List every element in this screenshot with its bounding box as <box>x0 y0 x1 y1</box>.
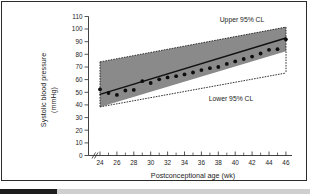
y-ticklabel: 80 <box>75 51 83 58</box>
confidence-band <box>100 27 286 107</box>
data-point <box>208 66 212 70</box>
data-point <box>115 93 119 97</box>
x-ticklabel: 36 <box>198 159 206 166</box>
bottom-bar-light-segment <box>57 189 310 194</box>
data-point <box>250 55 254 59</box>
data-point <box>242 57 246 61</box>
x-ticklabel: 38 <box>215 159 223 166</box>
bottom-bar-dark-segment <box>0 189 57 194</box>
x-ticklabel: 28 <box>130 159 138 166</box>
x-axis-ticks <box>100 152 286 156</box>
y-axis-ticklabels: 0 10 20 30 40 50 60 70 80 90 100 110 <box>72 13 83 159</box>
upper-cl-label: Upper 95% CL <box>220 16 265 24</box>
data-point <box>191 71 195 75</box>
y-ticklabel: 100 <box>72 25 83 32</box>
x-axis-ticklabels: 24 26 28 30 32 34 36 38 40 42 44 46 <box>96 159 289 166</box>
y-axis-title-line2: (mmHg) <box>49 87 58 113</box>
x-ticklabel: 24 <box>96 159 104 166</box>
y-ticklabel: 10 <box>75 139 83 146</box>
y-ticklabel: 90 <box>75 38 83 45</box>
data-point <box>166 76 170 80</box>
scatter-chart: 0 10 20 30 40 50 60 70 80 90 100 110 <box>0 0 310 194</box>
data-point <box>225 62 229 66</box>
data-point <box>233 60 237 64</box>
x-axis-title: Postconceptional age (wk) <box>151 171 235 180</box>
data-point <box>149 81 153 85</box>
y-ticklabel: 0 <box>79 152 83 159</box>
data-point <box>216 65 220 69</box>
y-axis-ticks <box>85 17 89 156</box>
data-point <box>132 88 136 92</box>
y-ticklabel: 30 <box>75 114 83 121</box>
y-ticklabel: 110 <box>72 13 83 20</box>
x-ticklabel: 30 <box>147 159 155 166</box>
data-point <box>276 47 280 51</box>
data-point <box>124 89 128 93</box>
lower-cl-label: Lower 95% CL <box>209 95 254 102</box>
x-ticklabel: 26 <box>113 159 121 166</box>
y-ticklabel: 60 <box>75 76 83 83</box>
page-bottom-bar <box>0 186 310 194</box>
figure-panel: 0 10 20 30 40 50 60 70 80 90 100 110 <box>0 0 310 194</box>
y-ticklabel: 20 <box>75 127 83 134</box>
x-ticklabel: 44 <box>265 159 273 166</box>
x-ticklabel: 34 <box>181 159 189 166</box>
x-ticklabel: 42 <box>249 159 257 166</box>
y-axis-title-line1: Systolic blood pressure <box>39 53 48 127</box>
data-point <box>174 74 178 78</box>
data-point <box>284 37 288 41</box>
y-ticklabel: 50 <box>75 89 83 96</box>
data-point <box>259 52 263 56</box>
data-point <box>183 73 187 77</box>
data-point <box>157 77 161 81</box>
x-ticklabel: 46 <box>282 159 290 166</box>
y-ticklabel: 40 <box>75 101 83 108</box>
data-point <box>140 79 144 83</box>
data-point <box>200 68 204 72</box>
x-ticklabel: 32 <box>164 159 172 166</box>
data-point <box>267 48 271 52</box>
x-ticklabel: 40 <box>232 159 240 166</box>
data-point <box>98 87 102 91</box>
data-point <box>107 91 111 95</box>
y-ticklabel: 70 <box>75 63 83 70</box>
